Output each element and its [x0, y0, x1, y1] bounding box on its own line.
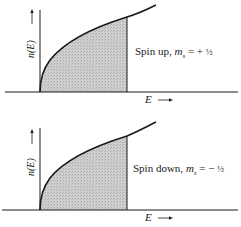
y-axis-label: n(E) — [25, 40, 36, 58]
x-axis-label: E — [145, 93, 152, 105]
arrow-right-icon — [169, 98, 173, 101]
arrow-right-icon — [169, 216, 173, 219]
arrow-up-icon — [30, 129, 33, 133]
y-axis-label-text: n(E) — [25, 40, 36, 58]
caption-eq: = + — [185, 45, 206, 57]
y-axis-label-text: n(E) — [25, 158, 36, 176]
caption-var: m — [186, 162, 194, 174]
caption-eq: = − — [197, 162, 218, 174]
caption-frac: ½ — [217, 164, 224, 174]
caption-text: Spin up, — [135, 45, 174, 57]
panel-caption: Spin up, ms = + ½ — [135, 45, 213, 60]
density-of-states-diagram — [0, 0, 241, 227]
x-axis-label: E — [145, 211, 152, 223]
y-axis-label: n(E) — [25, 158, 36, 176]
occupied-states-fill — [40, 17, 127, 92]
arrow-up-icon — [30, 9, 33, 13]
caption-frac: ½ — [206, 47, 213, 57]
panel-caption: Spin down, ms = − ½ — [133, 162, 224, 177]
occupied-states-fill — [40, 136, 127, 210]
caption-text: Spin down, — [133, 162, 186, 174]
